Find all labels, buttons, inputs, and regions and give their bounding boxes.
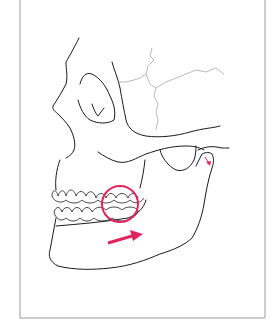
skull-diagram (0, 0, 273, 331)
annotations (102, 157, 211, 243)
condyle-arrow-icon (205, 157, 211, 166)
teeth (52, 190, 144, 221)
molar-highlight-circle (102, 186, 138, 222)
cranial-sutures (118, 48, 224, 130)
forward-arrow-icon (108, 230, 143, 243)
figure-frame (20, 0, 265, 318)
